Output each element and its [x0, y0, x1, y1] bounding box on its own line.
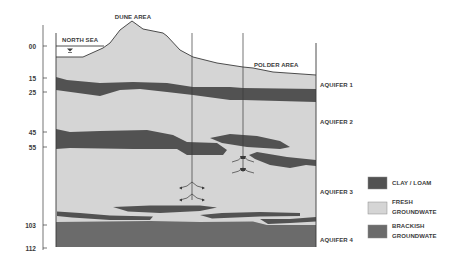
cross-section-diagram: DUNE AREA NORTH SEA POLDER AREA 00 15 25… [0, 0, 460, 263]
aquifer-2-label: AQUIFER 2 [320, 119, 353, 125]
depth-tick-label: 15 [29, 75, 37, 82]
legend-label: GROUNDWATE [392, 233, 437, 239]
legend-label: FRESH [392, 199, 413, 205]
aquifer-4-label: AQUIFER 4 [320, 237, 353, 243]
legend-item-brackish: BRACKISH GROUNDWATE [368, 223, 437, 239]
legend-label: CLAY / LOAM [392, 180, 431, 186]
depth-tick-label: 00 [29, 43, 37, 50]
aquifer-3-label: AQUIFER 3 [320, 189, 353, 195]
fresh-swatch [368, 202, 387, 214]
clay-swatch [368, 177, 387, 189]
depth-tick-label: 112 [26, 245, 37, 252]
water-level-icon [67, 49, 73, 53]
legend: CLAY / LOAM FRESH GROUNDWATE BRACKISH GR… [368, 177, 437, 239]
depth-tick-label: 103 [25, 222, 36, 229]
depth-axis: 00 15 25 45 55 103 112 [25, 25, 47, 252]
brackish-swatch [368, 225, 387, 238]
polder-area-label: POLDER AREA [254, 62, 299, 68]
depth-tick-label: 45 [29, 129, 37, 136]
legend-item-fresh: FRESH GROUNDWATE [368, 199, 437, 215]
depth-tick-label: 25 [29, 89, 37, 96]
dune-area-label: DUNE AREA [115, 14, 152, 20]
depth-tick-label: 55 [29, 144, 37, 151]
legend-item-clay: CLAY / LOAM [368, 177, 431, 189]
north-sea-label: NORTH SEA [62, 37, 99, 43]
legend-label: GROUNDWATE [392, 209, 437, 215]
aquifer-1-label: AQUIFER 1 [320, 82, 353, 88]
legend-label: BRACKISH [392, 223, 424, 229]
